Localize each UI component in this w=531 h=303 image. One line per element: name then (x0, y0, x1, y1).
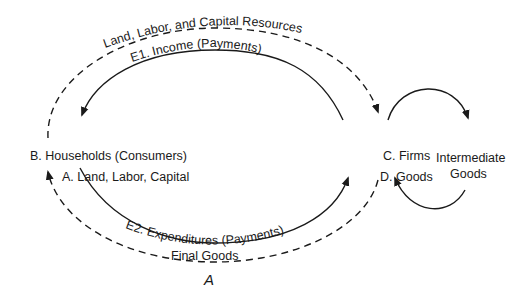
income-label: E1. Income (Payments) (129, 36, 264, 64)
goods-label: D. Goods (380, 170, 433, 184)
intermediate-goods-label-line1: Intermediate (436, 151, 506, 165)
income-flow-arc (82, 50, 343, 120)
final-goods-label: Final Goods (171, 249, 238, 263)
figure-caption: A (203, 271, 214, 288)
households-label: B. Households (Consumers) (30, 149, 187, 163)
firms-label: C. Firms (383, 149, 430, 163)
intermediate-goods-arc-top (388, 89, 468, 120)
expenditures-label: E2. Expenditures (Payments) (124, 218, 285, 248)
circular-flow-diagram: Land, Labor, and Capital Resources E1. I… (0, 0, 531, 303)
intermediate-goods-label-line2: Goods (450, 167, 487, 181)
land-labor-capital-label: A. Land, Labor, Capital (62, 170, 189, 184)
